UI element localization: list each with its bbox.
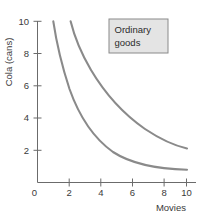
y-tick-label-6: 6 [24, 80, 29, 91]
annotation-line-2: goods [115, 37, 141, 48]
x-tick-label-6: 6 [130, 187, 135, 198]
ordinary-goods-annotation: Ordinary goods [109, 19, 168, 53]
y-axis-title: Cola (cans) [3, 38, 14, 87]
x-axis-title: Movies [156, 202, 186, 213]
y-tick-label-4: 4 [24, 112, 29, 123]
chart-figure: 10 8 6 4 2 0 2 4 6 8 10 Cola (cans) Movi… [0, 0, 213, 224]
x-tick-label-2: 2 [67, 187, 72, 198]
x-tick-label-8: 8 [161, 187, 166, 198]
x-tick-label-4: 4 [98, 187, 103, 198]
x-tick-label-0: 0 [32, 187, 37, 198]
chart-plot-area: 10 8 6 4 2 0 2 4 6 8 10 Cola (cans) Movi… [0, 0, 213, 224]
y-tick-label-8: 8 [24, 48, 29, 59]
x-tick-label-10: 10 [181, 187, 192, 198]
y-tick-label-2: 2 [24, 145, 29, 156]
annotation-line-1: Ordinary [115, 24, 152, 35]
y-tick-label-10: 10 [18, 16, 29, 27]
